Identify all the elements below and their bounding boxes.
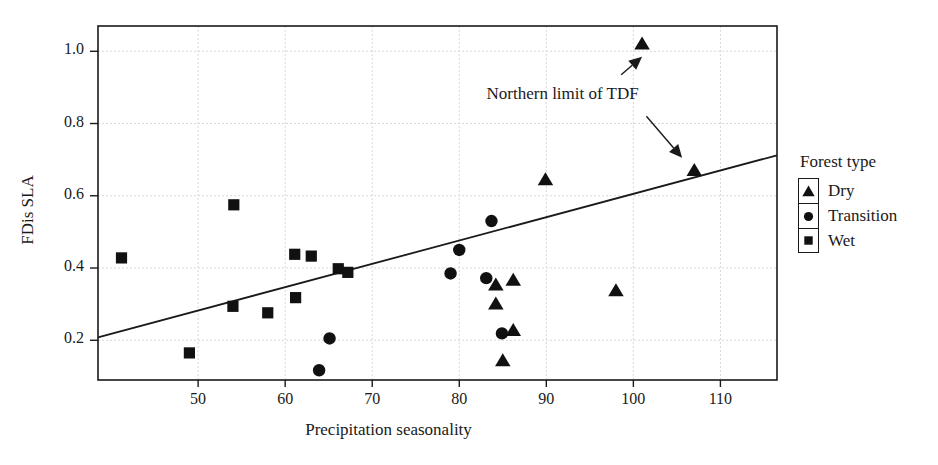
x-tick-label: 110 <box>700 390 740 408</box>
data-point-transition <box>480 272 492 284</box>
data-point-wet <box>306 251 317 262</box>
data-point-dry <box>687 163 703 176</box>
x-tick-label: 60 <box>265 390 305 408</box>
regression-line <box>98 155 777 337</box>
annotation-arrow-shaft <box>646 116 673 148</box>
data-point-wet <box>333 263 344 274</box>
data-point-wet <box>290 292 301 303</box>
data-point-transition <box>313 364 325 376</box>
legend-item-dry[interactable]: Dry <box>798 178 897 203</box>
legend-title: Forest type <box>800 152 897 172</box>
annotation-arrow-head <box>628 57 642 70</box>
data-point-wet <box>184 347 195 358</box>
x-tick-label: 80 <box>439 390 479 408</box>
data-point-dry <box>505 273 521 286</box>
x-tick-label: 70 <box>352 390 392 408</box>
x-tick-label: 100 <box>613 390 653 408</box>
square-icon <box>798 228 819 253</box>
triangle-glyph <box>802 185 814 196</box>
legend: Forest type DryTransitionWet <box>798 152 897 253</box>
data-point-wet <box>116 252 127 263</box>
gridlines <box>98 26 777 380</box>
data-point-wet <box>342 267 353 278</box>
data-point-dry <box>495 353 511 366</box>
x-tick-label: 90 <box>526 390 566 408</box>
legend-label: Dry <box>828 181 854 201</box>
figure-container: Precipitation seasonality FDis SLA 50607… <box>0 0 938 465</box>
data-point-transition <box>453 244 465 256</box>
legend-label: Wet <box>828 231 855 251</box>
x-axis-label: Precipitation seasonality <box>0 420 777 440</box>
data-point-dry <box>634 36 650 49</box>
y-tick-label: 0.2 <box>40 329 84 347</box>
legend-label: Transition <box>828 206 897 226</box>
plot-frame <box>98 26 777 380</box>
x-tick-label: 50 <box>178 390 218 408</box>
y-tick-label: 1.0 <box>40 40 84 58</box>
annotation-text: Northern limit of TDF <box>487 84 639 104</box>
data-point-dry <box>488 297 504 310</box>
y-tick-label: 0.4 <box>40 257 84 275</box>
data-point-transition <box>485 215 497 227</box>
annotation-arrow-shaft <box>621 65 632 75</box>
data-point-transition <box>323 332 335 344</box>
circle-icon <box>798 203 819 228</box>
y-tick-label: 0.8 <box>40 113 84 131</box>
circle-glyph <box>804 211 813 220</box>
annotation-arrow-head <box>669 144 682 158</box>
legend-item-transition[interactable]: Transition <box>798 203 897 228</box>
data-point-wet <box>228 199 239 210</box>
trend-line <box>98 155 777 337</box>
y-axis-label: FDis SLA <box>18 120 38 300</box>
annotation-arrows <box>621 57 682 158</box>
data-point-wet <box>227 301 238 312</box>
triangle-icon <box>798 178 819 203</box>
data-point-wet <box>262 307 273 318</box>
legend-rows: DryTransitionWet <box>798 178 897 253</box>
data-point-transition <box>496 327 508 339</box>
data-point-dry <box>538 172 554 185</box>
y-tick-label: 0.6 <box>40 185 84 203</box>
data-point-transition <box>444 267 456 279</box>
data-point-wet <box>289 249 300 260</box>
square-glyph <box>804 236 812 244</box>
legend-item-wet[interactable]: Wet <box>798 228 897 253</box>
data-point-dry <box>608 283 624 296</box>
